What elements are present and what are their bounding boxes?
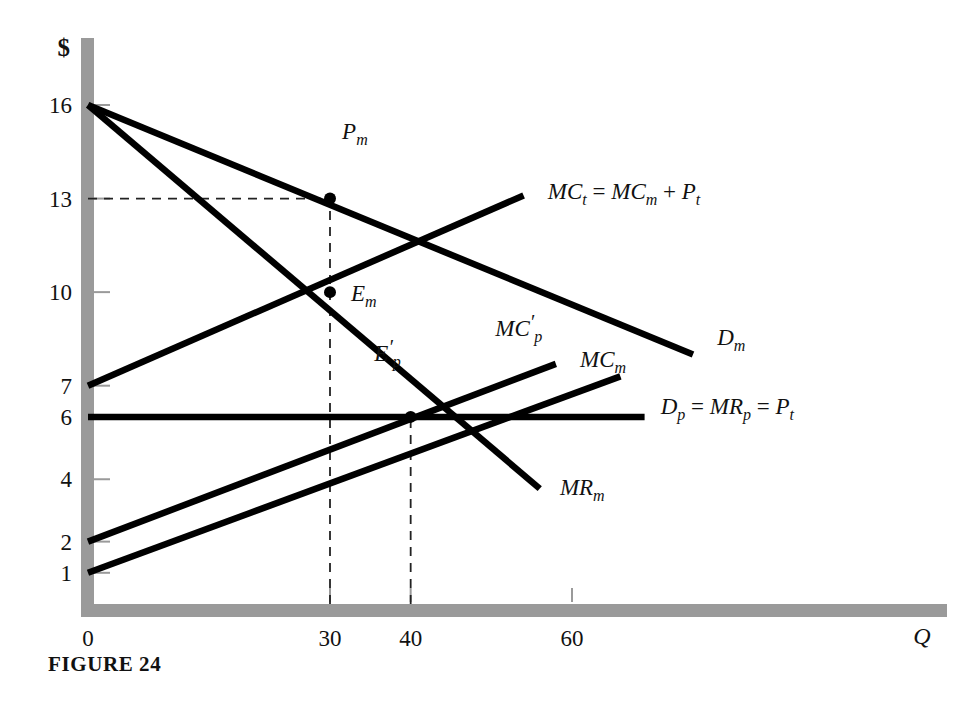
economics-chart: 124671013160304060$QDmMRmMCt = MCm + PtM… xyxy=(0,0,974,708)
x-axis xyxy=(81,604,947,617)
figure-container: 124671013160304060$QDmMRmMCt = MCm + PtM… xyxy=(0,0,974,708)
point-E_p_prime xyxy=(405,411,417,423)
y-tick-label-2: 2 xyxy=(61,530,73,555)
curve-label-MC_t: MCt = MCm + Pt xyxy=(547,179,701,208)
x-tick-label-30: 30 xyxy=(319,626,342,651)
curve-label-D_p: Dp = MRp = Pt xyxy=(660,394,795,424)
y-tick-label-4: 4 xyxy=(61,467,73,492)
y-tick-label-6: 6 xyxy=(61,405,73,430)
annotation-label-E_m: Em xyxy=(350,281,377,310)
curve-label-MC_p_prime: MC′p xyxy=(494,311,542,346)
curve-MC_t xyxy=(88,195,524,385)
point-P_m xyxy=(324,193,336,205)
curve-label-D_m: Dm xyxy=(716,325,745,354)
curve-D_m xyxy=(88,105,693,355)
x-tick-label-40: 40 xyxy=(399,626,422,651)
y-tick-label-1: 1 xyxy=(61,561,73,586)
point-E_m xyxy=(324,286,336,298)
annotation-label-P_m: Pm xyxy=(341,119,368,148)
y-tick-label-16: 16 xyxy=(49,93,72,118)
figure-caption: FIGURE 24 xyxy=(48,652,161,677)
y-axis-title: $ xyxy=(58,34,71,61)
curve-MC_m xyxy=(88,376,620,572)
y-tick-label-10: 10 xyxy=(49,280,72,305)
x-axis-title: Q xyxy=(913,623,930,649)
curve-label-MC_m: MCm xyxy=(579,347,626,376)
y-axis xyxy=(81,38,94,617)
curve-label-MR_m: MRm xyxy=(559,475,605,504)
y-tick-label-7: 7 xyxy=(61,374,73,399)
annotation-label-E_p_prime: E′p xyxy=(373,336,400,371)
x-tick-label-60: 60 xyxy=(561,626,584,651)
x-tick-label-0: 0 xyxy=(82,626,94,651)
curve-MC_p_prime xyxy=(88,364,556,542)
y-tick-label-13: 13 xyxy=(49,187,72,212)
